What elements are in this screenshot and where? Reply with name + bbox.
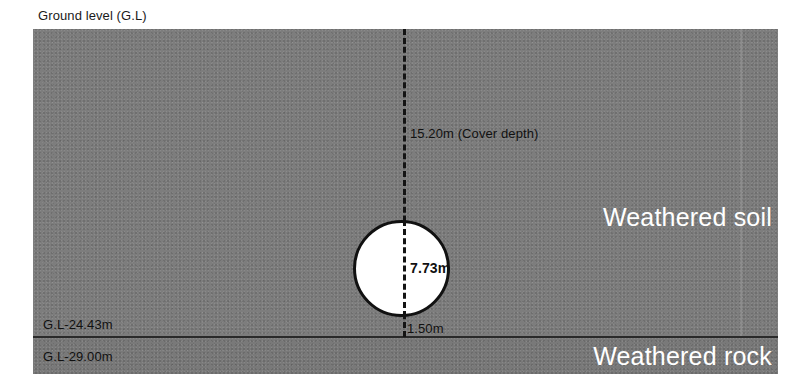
tunnel-cross-section-figure: Ground level (G.L) 15.20m (Cover depth) … <box>0 0 802 392</box>
weathered-soil-name-label: Weathered soil <box>603 203 772 231</box>
invert-clearance-label: 1.50m <box>407 321 444 336</box>
strata-section-body: 15.20m (Cover depth) 7.73m 1.50m G.L-24.… <box>33 29 778 374</box>
tunnel-diameter-label: 7.73m <box>410 261 450 276</box>
tunnel-centerline-dashed <box>403 220 406 317</box>
weathered-rock-name-label: Weathered rock <box>593 342 772 370</box>
elevation-label-soil-rock-interface: G.L-24.43m <box>43 317 113 332</box>
ground-level-label: Ground level (G.L) <box>38 8 147 24</box>
elevation-label-rock-base: G.L-29.00m <box>43 349 113 364</box>
scan-seam-line <box>740 29 742 337</box>
cover-depth-label: 15.20m (Cover depth) <box>410 126 538 141</box>
